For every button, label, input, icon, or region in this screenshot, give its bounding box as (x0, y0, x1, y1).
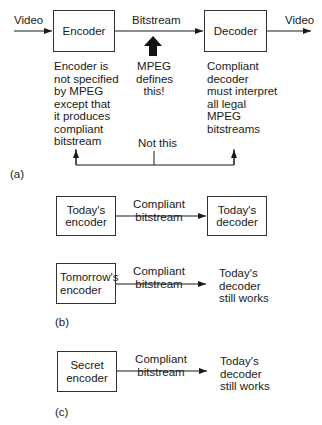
encoder-note: Encoder is not specified by MPEG except … (54, 60, 119, 148)
compliant-bitstream-label-b1: Compliant bitstream (128, 198, 190, 223)
not-this-label: Not this (138, 137, 177, 150)
part-b-label: (b) (55, 316, 69, 329)
part-c-label: (c) (55, 406, 68, 419)
decoder-note: Compliant decoder must interpret all leg… (207, 60, 277, 135)
todays-decoder-still-works-c: Today's decoder still works (220, 355, 270, 393)
todays-decoder-still-works-b: Today's decoder still works (219, 267, 269, 305)
encoder-box-label: Encoder (63, 25, 106, 38)
thick-up-arrow-icon (144, 36, 162, 56)
compliant-bitstream-label-b2: Compliant bitstream (128, 265, 190, 290)
tomorrows-encoder-box: Tomorrow's encoder (56, 263, 116, 304)
decoder-box: Decoder (204, 10, 267, 52)
secret-encoder-box: Secret encoder (57, 351, 117, 392)
compliant-bitstream-label-c: Compliant bitstream (130, 353, 192, 378)
decoder-box-label: Decoder (214, 25, 257, 38)
encoder-box: Encoder (53, 10, 115, 52)
part-a-label: (a) (10, 168, 24, 181)
video-input-label: Video (14, 14, 43, 27)
mpeg-note: MPEG defines this! (136, 60, 172, 98)
bitstream-label: Bitstream (132, 14, 181, 27)
todays-encoder-box: Today's encoder (56, 196, 116, 236)
todays-decoder-box: Today's decoder (207, 196, 267, 236)
video-output-label: Video (285, 14, 314, 27)
